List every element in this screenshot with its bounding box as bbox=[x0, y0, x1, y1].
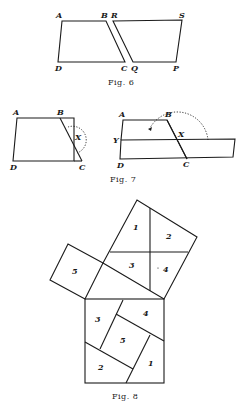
fig6-label-D: D bbox=[54, 63, 62, 73]
fig8-dot-marker bbox=[157, 267, 158, 268]
fig6-label-R: R bbox=[110, 10, 118, 20]
fig7-right-label-A: A bbox=[118, 109, 125, 119]
fig6-label-Q: Q bbox=[131, 63, 138, 73]
fig6: A B R S D C Q P Fig. 6 bbox=[54, 10, 185, 87]
fig7-left: A B X D C bbox=[9, 107, 86, 172]
fig8-caption: Fig. 8 bbox=[112, 392, 138, 401]
fig8-top-piece-2: 2 bbox=[165, 231, 172, 241]
fig7-left-shape bbox=[13, 118, 74, 161]
fig8-hyp-piece-5: 5 bbox=[120, 335, 126, 345]
fig8: 1 2 3 4 5 3 4 5 2 1 Fig. 8 bbox=[50, 200, 197, 401]
fig7-right: A B X Y D C Fig. 7 bbox=[110, 109, 235, 184]
fig7-right-label-B: B bbox=[164, 109, 172, 119]
fig6-label-C: C bbox=[121, 63, 128, 73]
fig8-small-piece-5: 5 bbox=[72, 266, 78, 276]
fig6-label-B: B bbox=[100, 10, 108, 20]
fig8-top-piece-4: 4 bbox=[163, 264, 169, 274]
fig7-left-label-C: C bbox=[79, 162, 86, 172]
fig8-hyp-piece-3: 3 bbox=[95, 314, 101, 324]
fig6-label-P: P bbox=[172, 63, 180, 73]
fig7-right-label-Y: Y bbox=[113, 135, 120, 145]
fig7-left-label-X: X bbox=[74, 132, 82, 142]
fig7-right-label-D: D bbox=[116, 160, 124, 170]
geometry-figures: A B R S D C Q P Fig. 6 A B X D C A B X Y… bbox=[0, 0, 239, 402]
fig8-hyp-piece-4: 4 bbox=[143, 308, 149, 318]
fig7-left-label-B: B bbox=[56, 107, 64, 117]
fig6-caption: Fig. 6 bbox=[108, 78, 134, 87]
fig7-caption: Fig. 7 bbox=[110, 175, 136, 184]
fig7-right-long-rect bbox=[120, 139, 235, 159]
fig7-left-label-D: D bbox=[9, 162, 17, 172]
fig7-right-label-C: C bbox=[183, 159, 190, 169]
fig8-top-piece-3: 3 bbox=[129, 260, 135, 270]
fig7-right-label-X: X bbox=[177, 129, 185, 139]
fig6-label-A: A bbox=[55, 10, 62, 20]
fig8-hyp-piece-1: 1 bbox=[148, 358, 154, 368]
fig7-left-label-A: A bbox=[12, 107, 19, 117]
fig8-hyp-cut-4 bbox=[126, 335, 150, 383]
fig8-hyp-piece-2: 2 bbox=[97, 362, 104, 372]
fig6-label-S: S bbox=[179, 10, 185, 20]
fig6-parallelogram-abcd bbox=[58, 21, 125, 62]
fig8-hyp-cut-3 bbox=[85, 342, 133, 369]
fig6-parallelogram-rspq bbox=[113, 20, 182, 62]
arrow-head-icon bbox=[148, 127, 152, 131]
fig8-top-piece-1: 1 bbox=[133, 222, 139, 232]
